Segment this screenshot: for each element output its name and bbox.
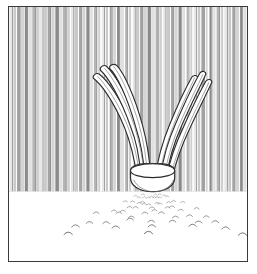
stripe: [210, 7, 212, 192]
stripe: [102, 7, 104, 192]
stripe-hairline: [104, 7, 105, 192]
stripe-hairline: [12, 7, 13, 192]
stripe: [232, 7, 235, 192]
stripe: [244, 7, 247, 192]
stripe-hairline: [219, 7, 220, 192]
stripe: [28, 7, 31, 192]
stripe: [36, 7, 39, 192]
stripe-hairline: [89, 7, 90, 192]
stripe: [10, 7, 13, 192]
frame-border: [8, 6, 248, 262]
stripe-hairline: [58, 7, 59, 192]
stripe-hairline: [73, 7, 74, 192]
stripe: [106, 7, 108, 192]
stripe: [59, 7, 62, 192]
stripe: [40, 7, 43, 192]
scene-svg: [9, 7, 247, 261]
stripe-hairline: [35, 7, 36, 192]
stripe: [79, 7, 81, 192]
stripe: [94, 7, 97, 192]
stripe-hairline: [227, 7, 228, 192]
stripe: [90, 7, 93, 192]
stripe-hairline: [20, 7, 21, 192]
stripe-hairline: [235, 7, 236, 192]
stripe: [86, 7, 89, 192]
stripe-hairline: [81, 7, 82, 192]
stripe: [44, 7, 47, 192]
stripe: [21, 7, 24, 192]
stripe-hairline: [242, 7, 243, 192]
stripe-hairline: [212, 7, 213, 192]
stripe: [236, 7, 239, 192]
stripe: [240, 7, 242, 192]
stripe: [224, 7, 227, 192]
stripe: [52, 7, 55, 192]
stripe-hairline: [96, 7, 97, 192]
stripe: [206, 7, 208, 192]
foreground-ground: [9, 192, 247, 261]
stripe: [228, 7, 231, 192]
stripe: [221, 7, 223, 192]
stripe: [98, 7, 100, 192]
stripe-hairline: [50, 7, 51, 192]
stripe: [74, 7, 78, 192]
stripe: [67, 7, 70, 192]
illustration-root: Botanical line drawing of a clump of str…: [0, 0, 257, 274]
stripe-hairline: [66, 7, 67, 192]
stripe: [25, 7, 28, 192]
stripe: [13, 7, 16, 192]
stripe: [213, 7, 215, 192]
stripe-hairline: [27, 7, 28, 192]
stripe-hairline: [43, 7, 44, 192]
bulb-rim: [131, 164, 175, 178]
stripe: [71, 7, 74, 192]
stripe: [82, 7, 85, 192]
